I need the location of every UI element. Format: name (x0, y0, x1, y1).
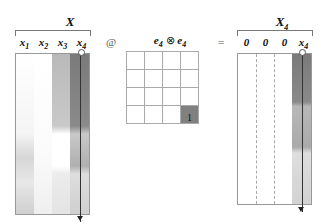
col-header-x1: x1 (16, 36, 34, 51)
cell (181, 52, 199, 70)
cell (181, 88, 199, 106)
col-header-0: 0 (238, 36, 256, 51)
matrix-x4 (237, 53, 312, 205)
cell (163, 70, 181, 88)
column-x4-line (80, 50, 81, 222)
matrix-x-title: X (40, 14, 100, 30)
col-header-0: 0 (276, 36, 294, 51)
arrow-down-icon (77, 216, 83, 221)
cell (127, 70, 145, 88)
cell (163, 52, 181, 70)
cell-one: 1 (181, 106, 199, 124)
matrix-x (15, 53, 90, 215)
col-header-x3: x3 (54, 36, 72, 51)
cell (127, 106, 145, 124)
arrow-down-icon (298, 207, 304, 212)
equals-operator: = (218, 36, 224, 48)
outer-product-matrix: 1 (126, 51, 199, 124)
cell (181, 70, 199, 88)
matrix-x-col-3 (52, 54, 71, 214)
matrix-x-col-1 (16, 54, 35, 214)
column-x4-result-line (302, 50, 303, 212)
cell (127, 52, 145, 70)
cell (127, 88, 145, 106)
col-header-x2: x2 (35, 36, 53, 51)
cell (145, 52, 163, 70)
column-x4-result-marker (299, 49, 306, 56)
matrix-x4-zero-col-2 (256, 54, 275, 204)
matrix-x4-zero-col-3 (274, 54, 293, 204)
outer-product-title: e4 ⊗ e4 (140, 34, 200, 49)
column-x4-marker (78, 49, 85, 56)
cell (163, 88, 181, 106)
matrix-x4-zero-col-1 (238, 54, 257, 204)
cell (163, 106, 181, 124)
cell (145, 106, 163, 124)
matrix-x4-title: X4 (252, 14, 312, 32)
matrix-x-col-2 (34, 54, 53, 214)
cell (145, 88, 163, 106)
cell (145, 70, 163, 88)
col-header-0: 0 (257, 36, 275, 51)
matmul-operator: @ (106, 36, 116, 48)
